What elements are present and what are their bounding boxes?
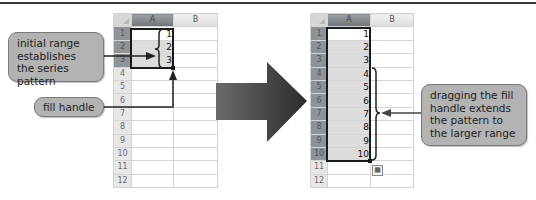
callout-dragging: dragging the fill handle extends the pat…: [421, 84, 527, 146]
right-brace: [372, 68, 380, 160]
callout-fill-handle: fill handle: [34, 97, 104, 117]
callout-initial-range: initial range establishes the series pat…: [8, 32, 104, 82]
left-brace: [155, 29, 164, 68]
right-arrow-icon: [216, 62, 307, 142]
